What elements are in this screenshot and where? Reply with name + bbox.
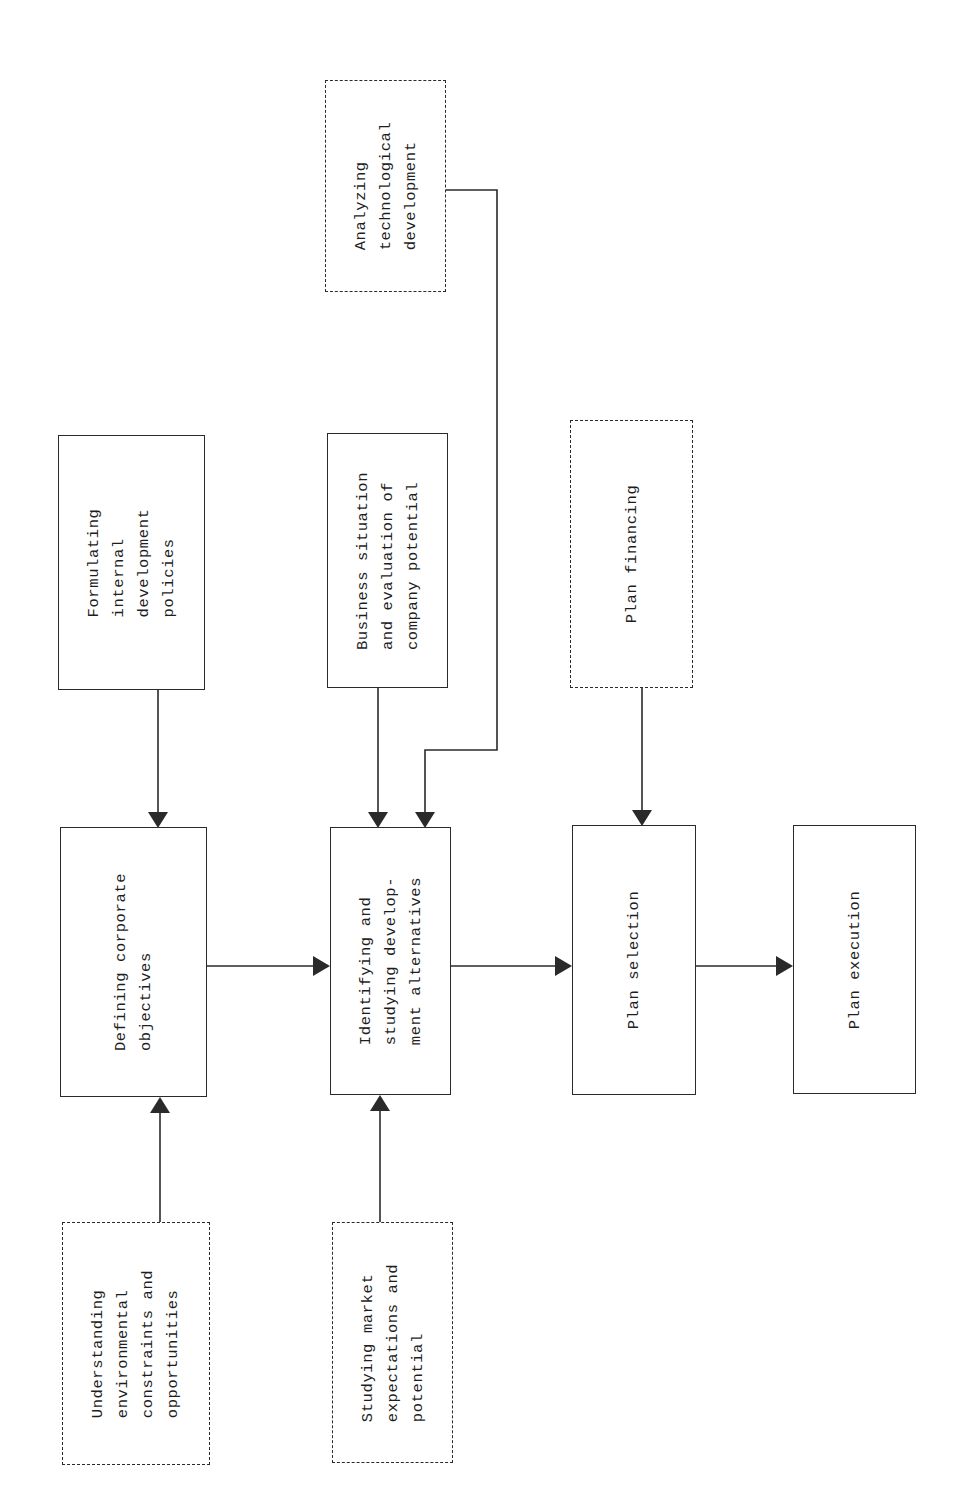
node-label: Plan financing bbox=[619, 485, 644, 624]
node-business-situation: Business situation and evaluation of com… bbox=[327, 433, 448, 688]
arrowhead-right-icon bbox=[313, 956, 330, 976]
node-label: Defining corporate objectives bbox=[109, 873, 159, 1051]
node-studying-market-expectations: Studying market expectations and potenti… bbox=[332, 1222, 453, 1463]
node-understanding-environmental-constraints: Understanding environmental constraints … bbox=[62, 1222, 210, 1465]
node-label: Plan execution bbox=[842, 890, 867, 1029]
node-formulating-internal-development-policies: Formulating internal development policie… bbox=[58, 435, 205, 690]
node-plan-selection: Plan selection bbox=[572, 825, 696, 1095]
node-label: Plan selection bbox=[622, 891, 647, 1030]
node-defining-corporate-objectives: Defining corporate objectives bbox=[60, 827, 207, 1097]
arrowhead-right-icon bbox=[776, 956, 793, 976]
node-analyzing-technological-development: Analyzing technological development bbox=[325, 80, 446, 292]
node-identifying-development-alternatives: Identifying and studying develop- ment a… bbox=[330, 827, 451, 1095]
arrowhead-up-icon bbox=[150, 1097, 170, 1113]
arrowhead-down-icon bbox=[148, 812, 168, 828]
node-label: Business situation and evaluation of com… bbox=[350, 471, 425, 649]
node-label: Identifying and studying develop- ment a… bbox=[353, 877, 428, 1045]
arrowhead-down-icon bbox=[368, 812, 388, 828]
arrowhead-right-icon bbox=[555, 956, 572, 976]
node-label: Understanding environmental constraints … bbox=[86, 1269, 186, 1418]
arrowhead-up-icon bbox=[370, 1095, 390, 1111]
arrowhead-down-icon bbox=[415, 812, 435, 828]
node-label: Formulating internal development policie… bbox=[82, 508, 182, 617]
node-label: Analyzing technological development bbox=[348, 122, 423, 251]
node-label: Studying market expectations and potenti… bbox=[355, 1263, 430, 1421]
node-plan-financing: Plan financing bbox=[570, 420, 693, 688]
node-plan-execution: Plan execution bbox=[793, 825, 916, 1094]
arrowhead-down-icon bbox=[632, 810, 652, 826]
